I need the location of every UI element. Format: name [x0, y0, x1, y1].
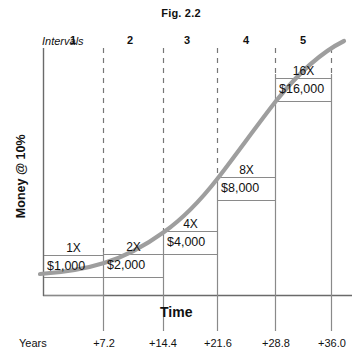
amount-label-3: $4,000	[167, 236, 205, 249]
year-tick-2: +14.4	[141, 338, 185, 349]
amount-label-5: $16,000	[279, 83, 324, 96]
interval-number-5: 5	[291, 35, 315, 46]
x-axis-label: Time	[160, 305, 192, 319]
figure-title: Fig. 2.2	[0, 8, 362, 19]
multiple-label-5: 16X	[276, 65, 331, 77]
multiple-label-4: 8X	[218, 164, 275, 176]
interval-number-3: 3	[175, 35, 199, 46]
amount-label-4: $8,000	[221, 182, 259, 195]
years-row-label: Years	[19, 338, 47, 349]
multiple-label-1: 1X	[44, 242, 103, 254]
multiple-label-2: 2X	[104, 241, 163, 253]
multiple-label-3: 4X	[164, 218, 217, 230]
year-tick-5: +36.0	[310, 338, 354, 349]
interval-number-4: 4	[234, 35, 258, 46]
interval-number-2: 2	[118, 35, 142, 46]
year-tick-1: +7.2	[82, 338, 126, 349]
y-axis-label: Money @ 10%	[15, 126, 28, 226]
amount-label-1: $1,000	[47, 260, 85, 273]
year-tick-4: +28.8	[254, 338, 298, 349]
amount-label-2: $2,000	[107, 259, 145, 272]
interval-number-1: 1	[61, 35, 85, 46]
figure-container: Fig. 2.2 Intervals 1 2 3 4 5 Money @ 10%…	[0, 0, 362, 364]
year-tick-3: +21.6	[196, 338, 240, 349]
